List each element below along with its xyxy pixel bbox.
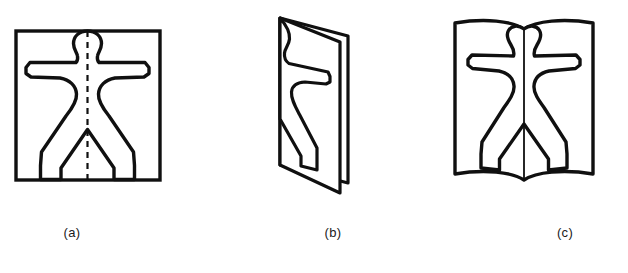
figure-root: (a) (b) (c): [0, 0, 628, 273]
figure-panel-b: (b): [240, 0, 410, 273]
figure-c-drawing: [430, 0, 628, 220]
figure-b-drawing: [240, 0, 410, 220]
caption-c: (c): [466, 225, 628, 240]
caption-b: (b): [248, 225, 418, 240]
figure-panel-c: (c): [430, 0, 628, 273]
caption-a: (a): [0, 225, 182, 240]
figure-panel-a: (a): [0, 0, 220, 273]
figure-a-drawing: [0, 0, 220, 220]
